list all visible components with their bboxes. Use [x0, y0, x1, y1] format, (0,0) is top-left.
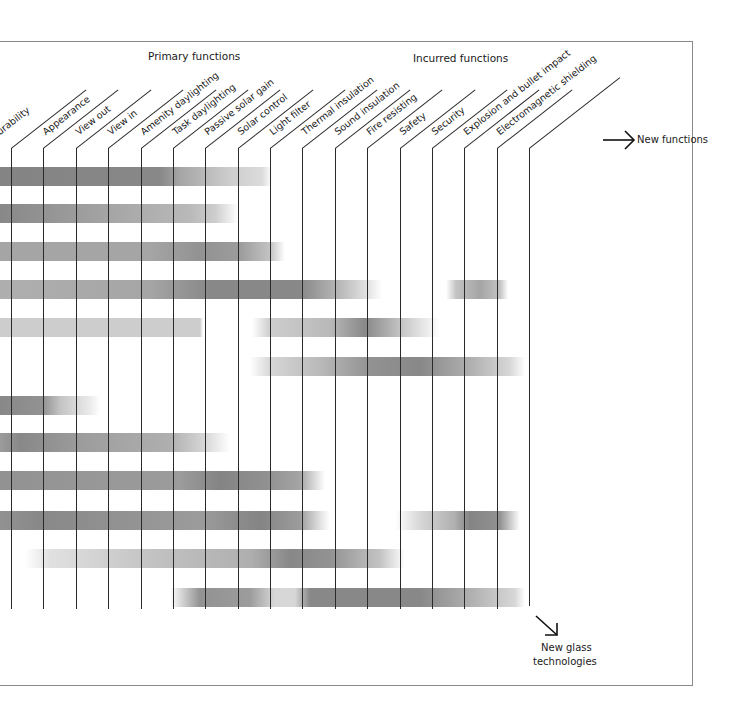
column-line — [302, 148, 303, 609]
column-line — [43, 148, 44, 609]
column-line — [367, 148, 368, 609]
column-line — [173, 148, 174, 609]
column-line — [205, 148, 206, 609]
column-line — [464, 148, 465, 609]
column-line — [529, 148, 530, 606]
column-line — [432, 148, 433, 609]
new-glass-technologies-label: New glass technologies — [536, 641, 597, 669]
column-line — [11, 148, 12, 609]
column-line — [238, 148, 239, 609]
column-line — [335, 148, 336, 609]
column-line — [108, 148, 109, 609]
column-line — [141, 148, 142, 609]
new-functions-label: New functions — [637, 133, 708, 147]
column-line — [76, 148, 77, 609]
column-line — [400, 148, 401, 609]
column-line — [270, 148, 271, 609]
arrow-down-right-icon — [535, 614, 561, 638]
column-line — [497, 148, 498, 609]
